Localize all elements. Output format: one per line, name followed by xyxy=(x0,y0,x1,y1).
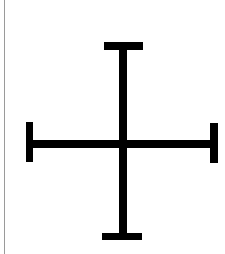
left-terminal-bar xyxy=(26,122,33,162)
bottom-terminal-bar xyxy=(102,233,142,240)
horizontal-stem xyxy=(30,140,214,148)
cross-potent-icon xyxy=(0,0,225,254)
right-terminal-bar xyxy=(210,123,218,163)
figure-canvas xyxy=(0,0,225,254)
